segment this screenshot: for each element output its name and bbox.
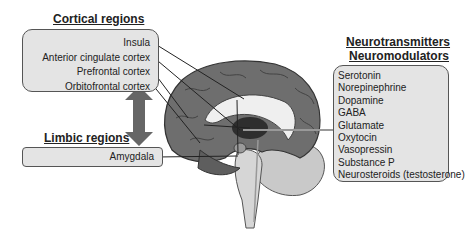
neuro-item: Dopamine [338, 95, 465, 107]
neuromodulators-heading: Neuromodulators [349, 49, 449, 63]
cortical-regions-heading: Cortical regions [53, 12, 144, 26]
limbic-regions-heading: Limbic regions [44, 131, 129, 145]
cortical-item: Insula [42, 36, 150, 51]
neuro-item: Serotonin [338, 70, 465, 82]
limbic-item: Amygdala [110, 151, 154, 162]
cortical-regions-list: Insula Anterior cingulate cortex Prefron… [42, 36, 150, 94]
neurotransmitters-list: Serotonin Norepinephrine Dopamine GABA G… [338, 70, 465, 182]
neuro-item: Vasopressin [338, 144, 465, 156]
cortical-item: Prefrontal cortex [42, 65, 150, 80]
neuro-item: Substance P [338, 157, 465, 169]
neuro-item: GABA [338, 107, 465, 119]
neurotransmitters-heading: Neurotransmitters [346, 35, 450, 49]
neuro-item: Oxytocin [338, 132, 465, 144]
neuro-item: Neurosteroids (testosterone) [338, 169, 465, 181]
cortical-regions-box: Insula Anterior cingulate cortex Prefron… [22, 29, 159, 92]
neuro-item: Norepinephrine [338, 82, 465, 94]
cortical-item: Orbitofrontal cortex [42, 80, 150, 95]
limbic-regions-box: Amygdala [22, 147, 163, 167]
neuro-item: Glutamate [338, 120, 465, 132]
cortical-item: Anterior cingulate cortex [42, 51, 150, 66]
neurotransmitters-box: Serotonin Norepinephrine Dopamine GABA G… [333, 65, 449, 182]
brainstem-shape [235, 150, 262, 228]
